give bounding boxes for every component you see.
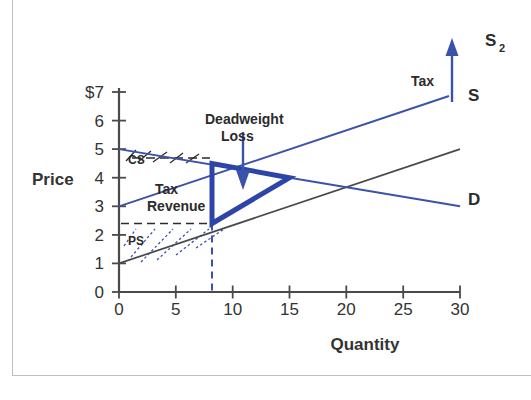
x-tick-label-5: 5 <box>171 300 180 319</box>
deadweight-loss-triangle <box>212 164 290 224</box>
consumer-surplus-label: CS <box>128 153 145 167</box>
y-tick-label-7: $7 <box>85 83 104 102</box>
x-tick-label-20: 20 <box>337 300 356 319</box>
producer-surplus-label: PS <box>128 234 144 248</box>
x-axis-ticks: 0 5 10 15 20 25 30 <box>114 286 469 320</box>
y-tick-label-5: 5 <box>95 140 104 159</box>
x-tick-label-30: 30 <box>451 300 470 319</box>
y-tick-label-2: 2 <box>95 226 104 245</box>
x-tick-label-25: 25 <box>394 300 413 319</box>
y-tick-label-4: 4 <box>95 169 104 188</box>
chart-page: $7 6 5 4 3 2 1 0 0 5 10 15 20 25 30 <box>0 0 531 400</box>
y-tick-label-1: 1 <box>95 254 104 273</box>
y-tick-label-0: 0 <box>95 283 104 302</box>
supply-demand-tax-chart: $7 6 5 4 3 2 1 0 0 5 10 15 20 25 30 <box>0 0 531 400</box>
y-tick-label-6: 6 <box>95 112 104 131</box>
dwl-arrow-head-icon <box>236 170 250 190</box>
tax-label: Tax <box>411 73 434 89</box>
y-axis-title: Price <box>32 170 74 189</box>
curve-label-s2-subscript: 2 <box>499 42 505 54</box>
curve-label-d: D <box>468 190 480 209</box>
deadweight-loss-label-line1: Deadweight <box>205 111 284 127</box>
tax-arrow-group <box>446 38 459 102</box>
x-tick-label-0: 0 <box>114 300 123 319</box>
y-tick-label-3: 3 <box>95 197 104 216</box>
x-tick-label-15: 15 <box>280 300 299 319</box>
deadweight-loss-label-line2: Loss <box>221 128 254 144</box>
tax-revenue-label-line1: Tax <box>155 181 178 197</box>
ps-hatch-3 <box>141 229 173 262</box>
curve-label-s: S <box>468 86 479 105</box>
curve-label-s2: S <box>485 31 496 50</box>
x-tick-label-10: 10 <box>223 300 242 319</box>
x-axis-title: Quantity <box>331 335 400 354</box>
ps-hatch-6 <box>196 229 224 248</box>
tax-revenue-label-line2: Revenue <box>147 198 206 214</box>
tax-arrow-head-icon <box>446 38 459 56</box>
